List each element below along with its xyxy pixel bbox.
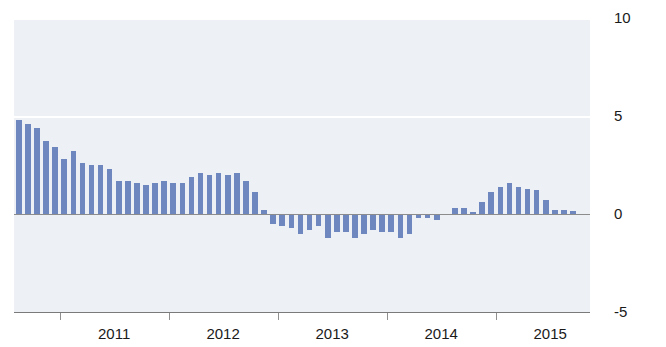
bar [80, 163, 86, 214]
bar [370, 214, 376, 230]
x-tick-mark [387, 312, 388, 320]
bar [361, 214, 367, 234]
bar [134, 183, 140, 214]
bar [116, 181, 122, 214]
bar [316, 214, 322, 226]
bar [198, 173, 204, 214]
bar [534, 190, 540, 214]
bar [279, 214, 285, 226]
bar [525, 189, 531, 214]
bar [152, 183, 158, 214]
x-axis-line [14, 312, 590, 313]
bar [325, 214, 331, 238]
bar [543, 200, 549, 214]
bar [170, 183, 176, 214]
x-tick-mark [169, 312, 170, 320]
bar [289, 214, 295, 228]
bar [225, 175, 231, 214]
bar [334, 214, 340, 232]
bar [507, 183, 513, 214]
bar [180, 183, 186, 214]
x-tick-mark [60, 312, 61, 320]
bar [252, 192, 258, 214]
bar [161, 181, 167, 214]
bar [16, 120, 22, 214]
y-tick-label: 10 [614, 9, 631, 26]
y-tick-label: 5 [614, 107, 622, 124]
bar [107, 169, 113, 214]
bar [216, 173, 222, 214]
bar [189, 177, 195, 214]
bar [270, 214, 276, 224]
bar [43, 141, 49, 214]
bar [516, 187, 522, 214]
bars-container [14, 18, 590, 312]
x-tick-mark [496, 312, 497, 320]
bar [143, 185, 149, 214]
chart-title [0, 0, 560, 4]
chart-figure: 1050-5 20112012201320142015 [0, 0, 666, 347]
bar [234, 173, 240, 214]
bar [52, 147, 58, 214]
y-tick-label: -5 [614, 303, 627, 320]
bar [61, 159, 67, 214]
bar [243, 181, 249, 214]
bar [352, 214, 358, 238]
y-tick-label: 0 [614, 205, 622, 222]
bar [488, 192, 494, 214]
bar [343, 214, 349, 232]
zero-baseline [14, 214, 590, 215]
bar [71, 151, 77, 214]
bar [34, 128, 40, 214]
bar [498, 187, 504, 214]
bar [479, 202, 485, 214]
x-tick-mark [278, 312, 279, 320]
bar [98, 165, 104, 214]
bar [388, 214, 394, 232]
bar [298, 214, 304, 234]
bar [125, 181, 131, 214]
bar [207, 175, 213, 214]
x-tick-label: 2015 [476, 325, 625, 342]
bar [307, 214, 313, 230]
bar [398, 214, 404, 238]
bar [407, 214, 413, 234]
bar [89, 165, 95, 214]
bar [379, 214, 385, 232]
bar [25, 124, 31, 214]
